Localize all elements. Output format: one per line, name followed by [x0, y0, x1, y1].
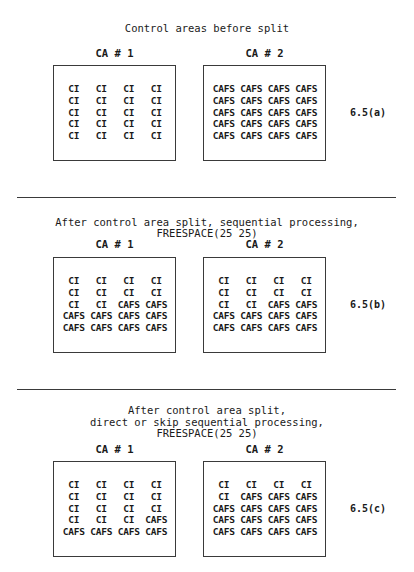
control-interval-cell: CI: [88, 514, 116, 526]
control-area-1-box: CICICICICICICICICICICICICICICICAFSCAFSCA…: [53, 461, 176, 557]
control-interval-cell: CI: [210, 287, 238, 299]
control-interval-cell: CI: [143, 491, 171, 503]
control-interval-cell: CI: [210, 479, 238, 491]
control-interval-cell: CI: [143, 83, 171, 95]
control-area-2-box: CICICICICICAFSCAFSCAFSCAFSCAFSCAFSCAFSCA…: [203, 461, 326, 557]
ca1-label: CA # 1: [53, 444, 176, 455]
control-interval-cell: CI: [115, 503, 143, 515]
control-interval-cell: CI: [60, 275, 88, 287]
free-space-cell: CAFS: [293, 322, 321, 334]
control-interval-cell: CI: [88, 299, 116, 311]
free-space-cell: CAFS: [143, 322, 171, 334]
ca2-label: CA # 2: [203, 239, 326, 250]
control-interval-cell: CI: [293, 287, 321, 299]
control-interval-cell: CI: [143, 130, 171, 142]
free-space-cell: CAFS: [238, 491, 266, 503]
control-interval-cell: CI: [143, 503, 171, 515]
control-interval-cell: CI: [115, 275, 143, 287]
ci-grid: CICICICICICICICICICICAFSCAFSCAFSCAFSCAFS…: [210, 275, 320, 334]
free-space-cell: CAFS: [88, 322, 116, 334]
free-space-cell: CAFS: [238, 322, 266, 334]
control-interval-cell: CI: [60, 491, 88, 503]
control-interval-cell: CI: [238, 287, 266, 299]
free-space-cell: CAFS: [210, 107, 238, 119]
free-space-cell: CAFS: [293, 130, 321, 142]
free-space-cell: CAFS: [115, 310, 143, 322]
ci-grid: CICICICICICICICICICICAFSCAFSCAFSCAFSCAFS…: [60, 275, 170, 334]
control-interval-cell: CI: [143, 287, 171, 299]
control-area-1-box: CICICICICICICICICICICAFSCAFSCAFSCAFSCAFS…: [53, 257, 176, 353]
free-space-cell: CAFS: [293, 526, 321, 538]
control-interval-cell: CI: [88, 491, 116, 503]
control-interval-cell: CI: [60, 107, 88, 119]
control-area-2-box: CAFSCAFSCAFSCAFSCAFSCAFSCAFSCAFSCAFSCAFS…: [203, 65, 326, 161]
section-b-title-line-2: FREESPACE(25 25): [0, 228, 414, 239]
control-interval-cell: CI: [115, 95, 143, 107]
free-space-cell: CAFS: [293, 503, 321, 515]
control-interval-cell: CI: [265, 287, 293, 299]
control-interval-cell: CI: [143, 107, 171, 119]
control-interval-cell: CI: [210, 275, 238, 287]
free-space-cell: CAFS: [265, 526, 293, 538]
free-space-cell: CAFS: [265, 118, 293, 130]
free-space-cell: CAFS: [265, 491, 293, 503]
control-interval-cell: CI: [143, 95, 171, 107]
control-interval-cell: CI: [115, 130, 143, 142]
ca1-label: CA # 1: [53, 48, 176, 59]
free-space-cell: CAFS: [88, 310, 116, 322]
free-space-cell: CAFS: [60, 526, 88, 538]
free-space-cell: CAFS: [115, 299, 143, 311]
section-divider-1: [17, 197, 396, 198]
control-interval-cell: CI: [143, 479, 171, 491]
free-space-cell: CAFS: [115, 322, 143, 334]
control-interval-cell: CI: [88, 479, 116, 491]
free-space-cell: CAFS: [210, 526, 238, 538]
free-space-cell: CAFS: [238, 118, 266, 130]
control-interval-cell: CI: [265, 479, 293, 491]
figure-label-a: 6.5(a): [350, 107, 386, 118]
control-interval-cell: CI: [115, 479, 143, 491]
ci-grid: CICICICICICICICICICICICICICICICAFSCAFSCA…: [60, 479, 170, 538]
free-space-cell: CAFS: [115, 526, 143, 538]
control-area-2-box: CICICICICICICICICICICAFSCAFSCAFSCAFSCAFS…: [203, 257, 326, 353]
control-interval-cell: CI: [238, 275, 266, 287]
ci-grid: CICICICICICICICICICICICICICICICICICICICI: [60, 83, 170, 142]
free-space-cell: CAFS: [265, 503, 293, 515]
control-interval-cell: CI: [210, 299, 238, 311]
control-interval-cell: CI: [88, 118, 116, 130]
free-space-cell: CAFS: [238, 130, 266, 142]
free-space-cell: CAFS: [210, 322, 238, 334]
free-space-cell: CAFS: [60, 310, 88, 322]
section-c-title-line-3: FREESPACE(25 25): [0, 428, 414, 439]
ca2-label: CA # 2: [203, 48, 326, 59]
free-space-cell: CAFS: [265, 95, 293, 107]
control-interval-cell: CI: [115, 491, 143, 503]
free-space-cell: CAFS: [210, 503, 238, 515]
free-space-cell: CAFS: [210, 310, 238, 322]
ci-grid: CICICICICICAFSCAFSCAFSCAFSCAFSCAFSCAFSCA…: [210, 479, 320, 538]
control-interval-cell: CI: [60, 83, 88, 95]
free-space-cell: CAFS: [293, 107, 321, 119]
free-space-cell: CAFS: [238, 107, 266, 119]
free-space-cell: CAFS: [293, 83, 321, 95]
free-space-cell: CAFS: [210, 130, 238, 142]
free-space-cell: CAFS: [238, 526, 266, 538]
control-interval-cell: CI: [60, 118, 88, 130]
section-a-title: Control areas before split: [0, 23, 414, 34]
free-space-cell: CAFS: [265, 107, 293, 119]
control-interval-cell: CI: [60, 503, 88, 515]
control-interval-cell: CI: [60, 479, 88, 491]
control-interval-cell: CI: [238, 479, 266, 491]
free-space-cell: CAFS: [265, 310, 293, 322]
control-interval-cell: CI: [238, 299, 266, 311]
free-space-cell: CAFS: [238, 83, 266, 95]
free-space-cell: CAFS: [265, 514, 293, 526]
control-interval-cell: CI: [88, 275, 116, 287]
ci-grid: CAFSCAFSCAFSCAFSCAFSCAFSCAFSCAFSCAFSCAFS…: [210, 83, 320, 142]
free-space-cell: CAFS: [265, 130, 293, 142]
control-interval-cell: CI: [60, 287, 88, 299]
free-space-cell: CAFS: [210, 95, 238, 107]
control-interval-cell: CI: [143, 118, 171, 130]
free-space-cell: CAFS: [265, 83, 293, 95]
control-interval-cell: CI: [88, 287, 116, 299]
